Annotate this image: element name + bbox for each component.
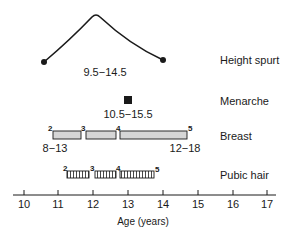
height-spurt-start-dot <box>41 59 47 65</box>
pubic-stage-4: 4 <box>116 164 121 173</box>
height-spurt-curve <box>41 15 166 65</box>
tick-label: 10 <box>18 198 30 210</box>
puberty-timeline-diagram: 9.5−14.5 Height spurt 10.5−15.5 Menarche… <box>0 0 290 235</box>
tick-label: 16 <box>227 198 239 210</box>
x-axis-label: Age (years) <box>117 216 169 227</box>
x-axis-tick-labels: 10 11 12 13 14 15 16 17 <box>18 198 273 210</box>
breast-left-range: 8−13 <box>43 142 68 154</box>
pubic-stage-5: 5 <box>155 165 160 174</box>
breast-stage-4: 4 <box>116 124 121 133</box>
tick-label: 12 <box>87 198 99 210</box>
pubic-stage-3: 3 <box>90 164 95 173</box>
tick-label: 14 <box>157 198 169 210</box>
breast-stage-5: 5 <box>188 124 193 133</box>
tick-label: 17 <box>261 198 273 210</box>
tick-label: 13 <box>122 198 134 210</box>
tick-label: 15 <box>192 198 204 210</box>
pubic-hair-label: Pubic hair <box>220 169 269 181</box>
breast-label: Breast <box>220 130 252 142</box>
menarche-marker <box>124 96 132 104</box>
menarche-label: Menarche <box>220 95 269 107</box>
breast-stage-3: 3 <box>81 124 86 133</box>
breast-right-range: 12−18 <box>170 142 201 154</box>
height-spurt-end-dot <box>160 57 166 63</box>
breast-stage-2: 2 <box>48 124 53 133</box>
pubic-stage-2: 2 <box>63 164 68 173</box>
x-axis <box>13 190 276 195</box>
menarche-range: 10.5−15.5 <box>103 108 152 120</box>
tick-label: 11 <box>52 198 63 210</box>
height-spurt-label: Height spurt <box>220 54 279 66</box>
height-spurt-range: 9.5−14.5 <box>83 66 126 78</box>
pubic-hair-stage-bars <box>67 171 154 178</box>
